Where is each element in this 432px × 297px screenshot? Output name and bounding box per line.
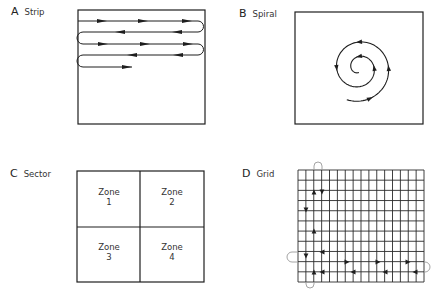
grid-turn-loop bbox=[287, 252, 298, 262]
zone-4-word: Zone bbox=[142, 242, 202, 252]
arrow-head-icon bbox=[304, 208, 309, 213]
zone-3-label: Zone 3 bbox=[79, 242, 139, 262]
arrow-head-icon bbox=[334, 65, 338, 71]
spiral-search-path bbox=[337, 42, 389, 101]
arrow-head-icon bbox=[304, 254, 309, 259]
arrow-head-icon bbox=[182, 19, 192, 23]
arrow-head-icon bbox=[140, 42, 150, 46]
arrow-head-icon bbox=[413, 270, 418, 275]
strip-pattern-panel bbox=[77, 10, 205, 124]
arrow-head-icon bbox=[345, 260, 350, 265]
arrow-head-icon bbox=[98, 42, 108, 46]
grid-pattern-panel bbox=[287, 162, 430, 288]
zone-1-number: 1 bbox=[79, 197, 139, 207]
arrow-head-icon bbox=[127, 53, 137, 57]
grid-turn-loop bbox=[424, 262, 430, 272]
grid-turn-loop bbox=[314, 162, 322, 170]
arrow-head-icon bbox=[356, 40, 362, 44]
arrow-head-icon bbox=[376, 260, 381, 265]
spiral-pattern-panel bbox=[295, 12, 423, 124]
zone-2-word: Zone bbox=[142, 187, 202, 197]
arrow-head-icon bbox=[115, 30, 125, 34]
zone-3-number: 3 bbox=[79, 252, 139, 262]
zone-3-word: Zone bbox=[79, 242, 139, 252]
zone-2-label: Zone 2 bbox=[142, 187, 202, 207]
grid-turn-loop bbox=[306, 282, 314, 288]
arrow-head-icon bbox=[387, 65, 391, 71]
zone-4-number: 4 bbox=[142, 252, 202, 262]
arrow-head-icon bbox=[183, 42, 193, 46]
arrow-head-icon bbox=[97, 19, 107, 23]
zone-2-number: 2 bbox=[142, 197, 202, 207]
arrow-head-icon bbox=[172, 30, 182, 34]
arrow-head-icon bbox=[122, 65, 132, 69]
zone-1-word: Zone bbox=[79, 187, 139, 197]
search-patterns-diagram bbox=[0, 0, 432, 297]
spiral-search-area bbox=[295, 12, 423, 124]
arrow-head-icon bbox=[173, 53, 183, 57]
zone-1-label: Zone 1 bbox=[79, 187, 139, 207]
arrow-head-icon bbox=[366, 97, 372, 102]
arrow-head-icon bbox=[138, 19, 148, 23]
arrow-head-icon bbox=[320, 190, 325, 195]
zone-4-label: Zone 4 bbox=[142, 242, 202, 262]
